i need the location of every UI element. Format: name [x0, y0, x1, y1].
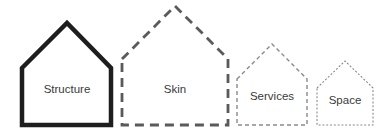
skin-house: Skin	[122, 6, 228, 125]
structure-house-outline	[22, 23, 111, 125]
structure-house: Structure	[22, 23, 111, 125]
skin-label: Skin	[164, 83, 186, 95]
services-label: Services	[250, 90, 294, 102]
space-house-outline	[317, 61, 373, 125]
skin-house-outline	[122, 6, 228, 125]
layers-diagram: Structure Skin Services Space	[0, 0, 392, 136]
space-house: Space	[317, 61, 373, 125]
structure-label: Structure	[44, 83, 91, 95]
services-house: Services	[237, 44, 307, 125]
services-house-outline	[237, 44, 307, 125]
space-label: Space	[329, 94, 362, 106]
